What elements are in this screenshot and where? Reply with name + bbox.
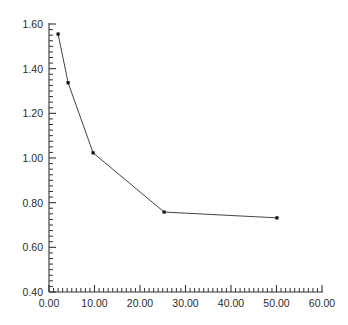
x-axis-tick-label: 60.00 — [309, 297, 335, 309]
data-point-marker — [275, 216, 278, 219]
chart-axes — [49, 23, 323, 292]
y-axis-tick-label: 1.40 — [0, 63, 43, 75]
y-axis-tick-label: 0.40 — [0, 286, 43, 298]
data-point-marker — [92, 151, 95, 154]
x-axis-tick-label: 10.00 — [81, 297, 107, 309]
chart-container: 0.400.600.801.001.201.401.60 0.0010.0020… — [0, 0, 348, 325]
y-axis-tick-label: 1.00 — [0, 152, 43, 164]
y-axis-tick-label: 1.20 — [0, 107, 43, 119]
x-axis-tick-label: 0.00 — [39, 297, 59, 309]
series-line-1 — [58, 34, 277, 218]
x-axis-tick-label: 30.00 — [172, 297, 198, 309]
x-axis-tick-label: 50.00 — [263, 297, 289, 309]
data-point-marker — [163, 210, 166, 213]
x-axis-tick-label: 20.00 — [127, 297, 153, 309]
data-point-marker — [67, 81, 70, 84]
chart-series-group — [57, 32, 279, 219]
y-axis-tick-label: 1.60 — [0, 18, 43, 30]
y-axis-tick-label: 0.80 — [0, 197, 43, 209]
data-point-marker — [57, 32, 60, 35]
x-axis-tick-label: 40.00 — [218, 297, 244, 309]
y-axis-tick-label: 0.60 — [0, 241, 43, 253]
chart-plot-area — [0, 0, 348, 325]
y-axis-major-ticks — [49, 24, 56, 292]
